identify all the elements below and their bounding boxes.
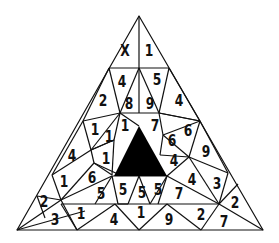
cell-number: 4	[188, 173, 197, 188]
cell-number: 6	[184, 124, 193, 139]
cell-number: 1	[137, 206, 146, 221]
cell-number: 7	[175, 187, 184, 202]
cell-number: 3	[213, 177, 222, 192]
cell-number: 2	[197, 208, 206, 223]
cell-number: 6	[88, 171, 97, 186]
cell-number: 5	[119, 183, 128, 198]
cell-number: 1	[102, 152, 111, 167]
cell-number: 9	[202, 145, 211, 160]
cell-number: 1	[121, 119, 130, 134]
cell-number: 5	[97, 187, 106, 202]
cell-number: 1	[145, 44, 154, 59]
cell-number: 9	[165, 213, 174, 228]
cell-number: 3	[51, 213, 60, 228]
cell-number: 4	[68, 149, 77, 164]
cell-number: 1	[77, 207, 86, 222]
cell-number: 6	[168, 134, 177, 149]
puzzle-diagram: X 1 4 5 2 8 9 4 1 1 1 7 6 6 9 4 1 4 1 6 …	[0, 0, 279, 243]
cell-number: 9	[146, 97, 155, 112]
cell-number: 4	[110, 213, 119, 228]
cell-number: 2	[99, 94, 108, 109]
cell-number: 8	[125, 97, 134, 112]
cell-number: 4	[170, 154, 179, 169]
cell-number: 2	[231, 196, 240, 211]
cell-number: 2	[40, 195, 49, 210]
cell-number: 7	[151, 119, 160, 134]
cell-number: 1	[91, 123, 100, 138]
cell-number: 1	[105, 130, 114, 145]
cell-number: 5	[154, 183, 163, 198]
cell-number: 1	[60, 175, 69, 190]
cell-number: 4	[175, 94, 184, 109]
cell-number: 5	[138, 186, 147, 201]
cell-missing-x: X	[120, 44, 129, 59]
cell-number: 7	[220, 215, 229, 230]
cell-number: 5	[153, 73, 162, 88]
cell-number: 4	[118, 75, 127, 90]
